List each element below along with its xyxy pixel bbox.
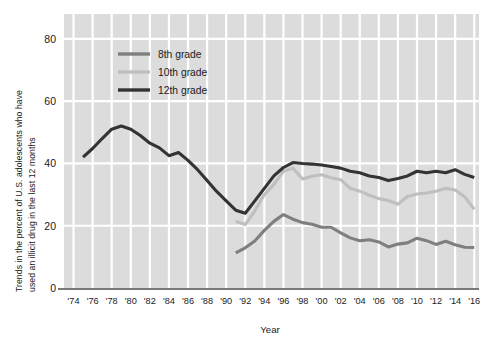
x-tick-label: '98 [297,296,309,306]
x-tick-label: '08 [392,296,404,306]
y-tick-label: 20 [44,220,56,232]
x-tick-label: '14 [449,296,461,306]
y-tick-label: 0 [50,282,56,294]
x-tick-label: '80 [125,296,137,306]
y-axis-ticks: 020406080 [44,33,56,294]
x-tick-label: '86 [182,296,194,306]
x-tick-label: '92 [239,296,251,306]
y-tick-label: 40 [44,157,56,169]
x-tick-label: '00 [316,296,328,306]
x-tick-label: '06 [373,296,385,306]
legend-label: 8th grade [158,49,202,60]
x-tick-label: '82 [144,296,156,306]
x-tick-label: '04 [354,296,366,306]
legend-label: 12th grade [158,85,208,96]
x-tick-label: '02 [335,296,347,306]
x-tick-label: '96 [277,296,289,306]
x-tick-label: '76 [87,296,99,306]
x-tick-label: '90 [220,296,232,306]
legend-label: 10th grade [158,67,208,78]
x-tick-label: '94 [258,296,270,306]
x-tick-label: '10 [411,296,423,306]
y-tick-label: 80 [44,33,56,45]
x-tick-label: '12 [430,296,442,306]
x-tick-label: '74 [68,296,80,306]
x-tick-label: '16 [468,296,480,306]
x-axis-title: Year [260,324,280,335]
x-tick-label: '88 [201,296,213,306]
y-tick-label: 60 [44,95,56,107]
illicit-drug-use-trends-chart: Trends in the percent of U.S. adolescent… [0,0,492,342]
x-axis-ticks: '74'76'78'80'82'84'86'88'90'92'94'96'98'… [68,296,481,306]
x-tick-label: '78 [106,296,118,306]
chart-canvas: 020406080 '74'76'78'80'82'84'86'88'90'92… [0,0,492,342]
x-tick-label: '84 [163,296,175,306]
